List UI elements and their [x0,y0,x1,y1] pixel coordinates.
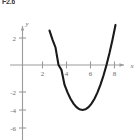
y-tick-label-neg4: -4 [10,107,16,115]
x-axis-arrow-icon [120,63,125,66]
y-tick-label-neg2: -2 [10,89,16,97]
y-axis-arrow-icon [21,26,24,31]
x-tick-label-2: 2 [41,70,45,78]
x-tick-label-8: 8 [113,70,117,78]
figure-container: F2.6 2 4 6 8 2 -2 -4 -6 x y [0,0,138,140]
x-tick-label-6: 6 [89,70,93,78]
y-axis-label: y [24,20,29,28]
parabola-curve [50,25,116,110]
x-axis-label: x [129,62,134,70]
x-tick-label-4: 4 [65,70,69,78]
parabola-plot: 2 4 6 8 2 -2 -4 -6 x y [0,0,138,140]
y-tick-label-neg6: -6 [10,125,16,133]
y-tick-label-2: 2 [13,35,17,43]
